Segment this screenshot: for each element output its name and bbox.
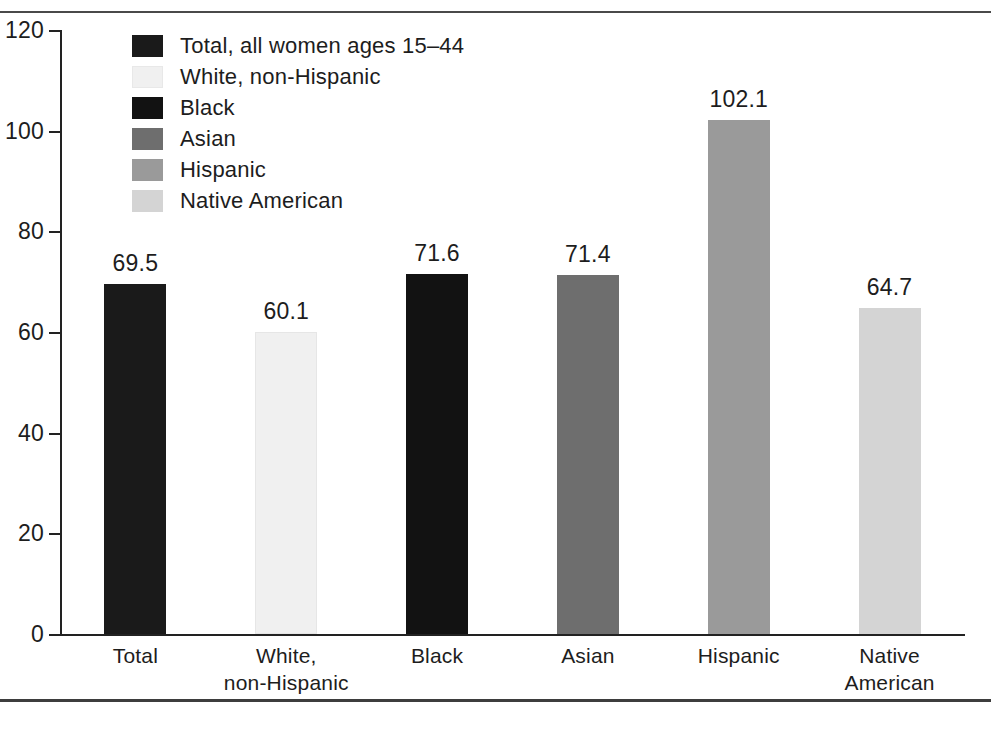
bar-asian[interactable]: 71.4 xyxy=(557,275,619,634)
bar-group: 64.7 xyxy=(859,30,921,636)
x-axis-label: Asian xyxy=(561,642,615,669)
y-axis-line xyxy=(60,30,62,636)
bar-value-label: 71.4 xyxy=(565,241,611,268)
y-tick-mark xyxy=(49,634,60,636)
y-tick-label: 20 xyxy=(18,520,44,547)
bar-black[interactable]: 71.6 xyxy=(406,274,468,634)
legend-item-label: Asian xyxy=(180,126,236,152)
bar-group: 71.4 xyxy=(557,30,619,636)
legend-item[interactable]: Total, all women ages 15–44 xyxy=(132,30,464,61)
legend-swatch-icon xyxy=(132,190,163,212)
legend-item[interactable]: Black xyxy=(132,92,464,123)
bar-value-label: 64.7 xyxy=(867,274,913,301)
y-tick-label: 80 xyxy=(18,218,44,245)
bar-value-label: 71.6 xyxy=(414,240,460,267)
legend-item-label: Native American xyxy=(180,188,343,214)
chart-legend: Total, all women ages 15–44White, non-Hi… xyxy=(132,30,464,216)
figure-bottom-rule xyxy=(0,699,991,702)
legend-item[interactable]: Hispanic xyxy=(132,154,464,185)
y-tick-label: 120 xyxy=(5,17,44,44)
y-tick-mark xyxy=(49,533,60,535)
legend-item[interactable]: Native American xyxy=(132,185,464,216)
bar-hispanic[interactable]: 102.1 xyxy=(708,120,770,634)
y-tick-label: 60 xyxy=(18,319,44,346)
y-tick-label: 100 xyxy=(5,117,44,144)
figure-container: 020406080100120 69.560.171.671.4102.164.… xyxy=(0,0,991,730)
bar-value-label: 102.1 xyxy=(709,86,768,113)
bar-group: 102.1 xyxy=(708,30,770,636)
y-tick-mark xyxy=(49,433,60,435)
x-axis-line xyxy=(60,634,965,636)
bar-total[interactable]: 69.5 xyxy=(104,284,166,634)
x-axis-label: White, non-Hispanic xyxy=(224,642,349,696)
x-axis-label: Black xyxy=(411,642,463,669)
y-tick-label: 40 xyxy=(18,419,44,446)
y-tick-label: 0 xyxy=(31,621,44,648)
legend-swatch-icon xyxy=(132,66,163,88)
legend-swatch-icon xyxy=(132,128,163,150)
legend-item-label: Black xyxy=(180,95,235,121)
x-axis-label: Native American xyxy=(844,642,934,696)
legend-swatch-icon xyxy=(132,35,163,57)
bar-value-label: 60.1 xyxy=(263,298,309,325)
legend-item-label: Hispanic xyxy=(180,157,266,183)
x-axis-label: Hispanic xyxy=(698,642,780,669)
y-tick-mark xyxy=(49,231,60,233)
legend-item[interactable]: Asian xyxy=(132,123,464,154)
bar-whitenon-hispanic[interactable]: 60.1 xyxy=(255,332,317,635)
plot-area: 020406080100120 69.560.171.671.4102.164.… xyxy=(60,30,965,636)
legend-item-label: White, non-Hispanic xyxy=(180,64,381,90)
y-tick-mark xyxy=(49,131,60,133)
legend-swatch-icon xyxy=(132,97,163,119)
legend-item[interactable]: White, non-Hispanic xyxy=(132,61,464,92)
y-tick-mark xyxy=(49,30,60,32)
y-tick-mark xyxy=(49,332,60,334)
legend-item-label: Total, all women ages 15–44 xyxy=(180,33,464,59)
legend-swatch-icon xyxy=(132,159,163,181)
figure-top-rule xyxy=(0,11,991,13)
bar-nativeamerican[interactable]: 64.7 xyxy=(859,308,921,634)
x-axis-label: Total xyxy=(113,642,158,669)
bar-value-label: 69.5 xyxy=(113,250,159,277)
